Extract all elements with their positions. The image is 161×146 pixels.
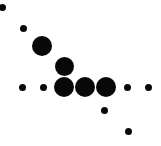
scatter-point bbox=[101, 107, 108, 114]
scatter-point bbox=[145, 84, 152, 91]
scatter-point bbox=[32, 36, 52, 56]
scatter-point bbox=[124, 84, 131, 91]
scatter-point bbox=[55, 57, 74, 76]
bubble-scatter-figure bbox=[0, 0, 161, 146]
scatter-point bbox=[19, 84, 26, 91]
scatter-point bbox=[40, 84, 47, 91]
scatter-point bbox=[20, 25, 27, 32]
plot-area bbox=[0, 0, 161, 146]
scatter-point bbox=[54, 77, 74, 97]
scatter-point bbox=[0, 4, 6, 11]
scatter-point bbox=[125, 128, 132, 135]
scatter-point bbox=[96, 77, 116, 97]
scatter-point bbox=[75, 77, 95, 97]
